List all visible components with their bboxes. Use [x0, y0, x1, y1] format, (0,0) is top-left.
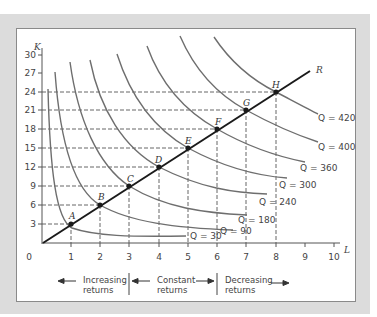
svg-text:15: 15: [25, 143, 36, 153]
svg-text:10: 10: [328, 252, 340, 262]
svg-text:8: 8: [273, 252, 279, 262]
label-q240: Q = 240: [259, 197, 297, 207]
constant-line1: Constant: [157, 275, 196, 285]
x-axis-label: L: [343, 245, 350, 255]
isoquant-q240: [90, 60, 267, 194]
point-g: [243, 107, 248, 112]
svg-text:1: 1: [68, 252, 74, 262]
increasing-line2: returns: [83, 285, 114, 295]
svg-text:27: 27: [25, 68, 36, 78]
x-tick-labels: 0 1 2 3 4 5 6 7 8 9 10: [26, 252, 340, 262]
svg-text:2: 2: [97, 252, 103, 262]
label-q30: Q = 30: [190, 231, 222, 241]
point-c: [126, 183, 131, 188]
svg-text:12: 12: [25, 162, 36, 172]
svg-text:6: 6: [30, 200, 36, 210]
isoquant-q400: [180, 36, 318, 142]
svg-text:18: 18: [25, 124, 37, 134]
label-q400: Q = 400: [318, 142, 356, 152]
increasing-line1: Increasing: [83, 275, 127, 285]
label-q180: Q = 180: [238, 215, 276, 225]
point-b: [97, 202, 102, 207]
svg-text:9: 9: [30, 181, 36, 191]
point-label-f: F: [214, 117, 222, 127]
svg-text:3: 3: [126, 252, 132, 262]
point-f: [214, 126, 219, 131]
label-q90: Q = 90: [220, 226, 252, 236]
point-a: [68, 221, 73, 226]
label-q300: Q = 300: [279, 180, 317, 190]
isoquant-q360: [147, 46, 305, 162]
point-label-d: D: [154, 155, 162, 165]
decreasing-line1: Decreasing: [225, 275, 273, 285]
svg-text:5: 5: [185, 252, 191, 262]
svg-text:7: 7: [243, 252, 249, 262]
constant-line2: returns: [157, 285, 188, 295]
ray-label: R: [315, 65, 323, 75]
region-labels: Increasing returns Constant returns Decr…: [83, 275, 273, 295]
isoquant-q90: [55, 72, 233, 230]
svg-text:24: 24: [25, 87, 37, 97]
point-label-h: H: [271, 80, 280, 90]
svg-text:21: 21: [25, 105, 36, 115]
point-d: [156, 164, 161, 169]
y-tick-labels: 3 6 9 12 15 18 21 24 27 30: [25, 50, 37, 229]
point-label-a: A: [68, 211, 76, 221]
svg-text:9: 9: [302, 252, 308, 262]
point-h: [273, 89, 278, 94]
svg-text:3: 3: [30, 219, 36, 229]
point-label-c: C: [127, 174, 134, 184]
svg-text:6: 6: [214, 252, 220, 262]
chart-svg: A B C D E F G H 3 6 9 12 15 18 21 24 27 …: [0, 0, 377, 317]
point-label-b: B: [97, 192, 105, 202]
point-label-e: E: [184, 136, 192, 146]
svg-text:0: 0: [26, 252, 32, 262]
label-q360: Q = 360: [300, 163, 338, 173]
point-e: [185, 145, 190, 150]
decreasing-line2: returns: [225, 285, 256, 295]
svg-text:4: 4: [156, 252, 162, 262]
y-axis-label: K: [33, 42, 42, 52]
label-q420: Q = 420: [318, 113, 356, 123]
point-label-g: G: [243, 98, 250, 108]
